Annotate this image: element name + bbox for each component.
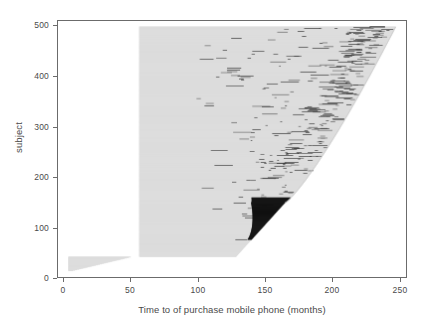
x-tick-label-100: 100 bbox=[178, 285, 218, 295]
y-tick-200 bbox=[53, 177, 57, 178]
x-axis-title: Time to of purchase mobile phone (months… bbox=[57, 304, 407, 315]
y-tick-label-0: 0 bbox=[19, 273, 49, 283]
y-tick-label-200: 200 bbox=[19, 172, 49, 182]
y-tick-label-100: 100 bbox=[19, 223, 49, 233]
x-tick-200 bbox=[332, 278, 333, 282]
x-tick-250 bbox=[400, 278, 401, 282]
y-tick-label-400: 400 bbox=[19, 71, 49, 81]
y-tick-label-300: 300 bbox=[19, 122, 49, 132]
y-tick-label-500: 500 bbox=[19, 20, 49, 30]
event-history-canvas bbox=[58, 21, 406, 277]
x-tick-label-0: 0 bbox=[43, 285, 83, 295]
y-tick-400 bbox=[53, 76, 57, 77]
figure: 0 50 100 150 200 250 500 400 300 200 100… bbox=[0, 0, 429, 330]
x-tick-label-50: 50 bbox=[110, 285, 150, 295]
x-tick-100 bbox=[198, 278, 199, 282]
x-tick-label-200: 200 bbox=[312, 285, 352, 295]
y-tick-0 bbox=[53, 278, 57, 279]
plot-area bbox=[57, 20, 407, 278]
y-axis-title: subject bbox=[13, 98, 24, 178]
x-tick-0 bbox=[63, 278, 64, 282]
x-tick-label-250: 250 bbox=[380, 285, 420, 295]
x-tick-150 bbox=[265, 278, 266, 282]
y-tick-300 bbox=[53, 127, 57, 128]
y-tick-500 bbox=[53, 25, 57, 26]
x-tick-50 bbox=[130, 278, 131, 282]
y-tick-100 bbox=[53, 228, 57, 229]
x-tick-label-150: 150 bbox=[245, 285, 285, 295]
